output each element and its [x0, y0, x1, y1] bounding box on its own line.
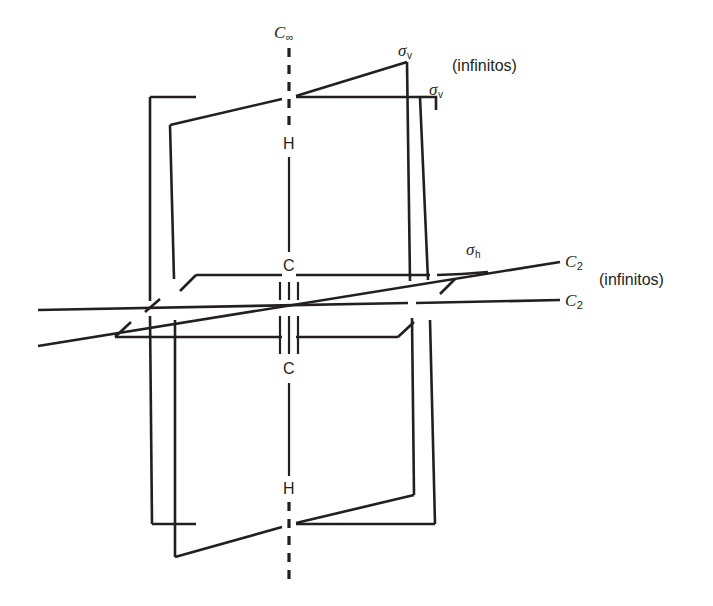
- label-c2-slanted: C2: [565, 253, 582, 270]
- atom-label-h-bottom: H: [283, 481, 295, 497]
- sigma-v-rear-right-upper: [420, 97, 428, 280]
- sigma-v-front-right-lower: [412, 318, 414, 495]
- sigma-v-front-top-right: [296, 62, 407, 96]
- atom-label-c-top: C: [283, 258, 295, 274]
- atom-label-h-top: H: [283, 136, 295, 152]
- atom-label-c-bottom: C: [283, 361, 295, 377]
- label-c-infinity-subscript: ∞: [286, 31, 294, 43]
- sigma-h-left-connector-far: [180, 275, 196, 291]
- label-sigma-v-rear-symbol: σ: [429, 80, 437, 99]
- label-c2-slanted-subscript: 2: [577, 260, 583, 272]
- sigma-v-front-left-upper: [170, 125, 174, 279]
- sigma-v-front-bottom-left: [175, 527, 282, 557]
- label-c-infinity-symbol: C: [274, 23, 285, 42]
- acetylene-molecule: [280, 157, 298, 476]
- sigma-v-plane-rear: [150, 97, 435, 524]
- label-sigma-h-subscript: h: [475, 249, 481, 260]
- note-sigma-v-infinite: (infinitos): [452, 58, 517, 74]
- label-c-infinity: C∞: [274, 24, 293, 41]
- label-sigma-v-front-subscript: v: [407, 50, 412, 61]
- label-sigma-h: σh: [466, 241, 480, 258]
- label-sigma-v-front: σv: [398, 42, 411, 59]
- label-c2-horizontal: C2: [565, 292, 582, 309]
- sigma-h-left-short-edge: [115, 322, 131, 337]
- label-c2-horizontal-symbol: C: [565, 291, 576, 310]
- label-c2-horizontal-subscript: 2: [577, 299, 583, 311]
- sigma-v-front-top-left: [170, 99, 282, 125]
- note-c2-infinite: (infinitos): [599, 272, 664, 288]
- sigma-v-rear-left-lower: [150, 316, 152, 524]
- label-c2-slanted-symbol: C: [565, 252, 576, 271]
- symmetry-diagram: H C C H C∞ σv σv σh C2 C2 (infinitos) (i…: [0, 0, 713, 606]
- label-sigma-v-front-symbol: σ: [398, 41, 406, 60]
- sigma-v-rear-right-lower: [430, 320, 435, 524]
- symmetry-drawing: [0, 0, 713, 606]
- label-sigma-h-symbol: σ: [466, 240, 474, 259]
- sigma-h-hidden-corner-hint: [145, 299, 160, 312]
- sigma-h-far-edge-right: [437, 274, 462, 275]
- label-sigma-v-rear-subscript: v: [438, 89, 443, 100]
- sigma-v-front-bottom-right: [296, 495, 414, 523]
- c2-axis-horizontal-left: [38, 303, 408, 310]
- sigma-v-front-right-upper: [407, 62, 410, 281]
- label-sigma-v-rear: σv: [429, 81, 442, 98]
- c2-axis-horizontal-right: [416, 300, 560, 303]
